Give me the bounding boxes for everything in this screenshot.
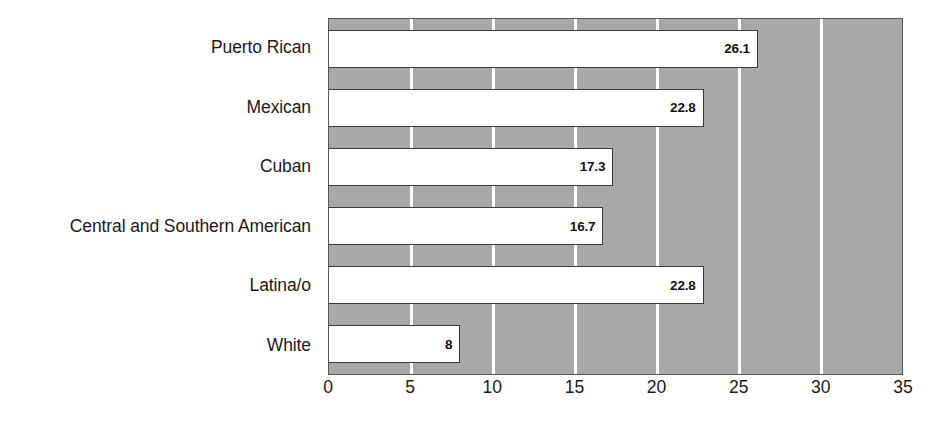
category-axis-labels: Puerto Rican Mexican Cuban Central and S… xyxy=(0,18,320,375)
category-label: Puerto Rican xyxy=(211,37,311,58)
bar[interactable]: 26.1 xyxy=(329,30,758,68)
bar-row: 26.1 xyxy=(329,19,902,78)
category-label-row: White xyxy=(0,316,320,376)
bar-row: 22.8 xyxy=(329,78,902,137)
x-tick-label: 35 xyxy=(893,377,912,398)
x-axis: 05101520253035 xyxy=(328,377,903,407)
category-label-row: Puerto Rican xyxy=(0,18,320,78)
bar-value-label: 17.3 xyxy=(580,159,612,174)
x-tick-label: 10 xyxy=(483,377,502,398)
bar-row: 8 xyxy=(329,315,902,374)
gridline xyxy=(903,19,906,374)
bar[interactable]: 17.3 xyxy=(329,148,613,186)
bar[interactable]: 8 xyxy=(329,325,460,363)
x-tick-label: 5 xyxy=(405,377,415,398)
x-tick-label: 0 xyxy=(323,377,333,398)
bar-row: 16.7 xyxy=(329,197,902,256)
bar-chart: Puerto Rican Mexican Cuban Central and S… xyxy=(0,0,944,430)
bar[interactable]: 22.8 xyxy=(329,266,704,304)
bar-value-label: 16.7 xyxy=(570,219,602,234)
bar-value-label: 22.8 xyxy=(670,278,702,293)
category-label: White xyxy=(267,335,311,356)
category-label-row: Cuban xyxy=(0,137,320,197)
category-label-row: Latina/o xyxy=(0,256,320,316)
bar-row: 22.8 xyxy=(329,256,902,315)
x-tick-label: 30 xyxy=(811,377,830,398)
bar-value-label: 8 xyxy=(445,337,459,352)
x-tick-label: 15 xyxy=(565,377,584,398)
x-tick-label: 20 xyxy=(647,377,666,398)
category-label: Mexican xyxy=(247,97,311,118)
bars-layer: 26.1 22.8 17.3 16.7 xyxy=(329,19,902,374)
x-tick-label: 25 xyxy=(729,377,748,398)
bar[interactable]: 22.8 xyxy=(329,89,704,127)
category-label: Cuban xyxy=(260,156,311,177)
category-label-row: Mexican xyxy=(0,78,320,138)
category-label-row: Central and Southern American xyxy=(0,197,320,257)
bar[interactable]: 16.7 xyxy=(329,207,603,245)
category-label: Central and Southern American xyxy=(70,216,311,237)
category-label: Latina/o xyxy=(250,275,311,296)
bar-value-label: 22.8 xyxy=(670,100,702,115)
bar-row: 17.3 xyxy=(329,137,902,196)
plot-area: 26.1 22.8 17.3 16.7 xyxy=(328,18,903,375)
bar-value-label: 26.1 xyxy=(724,41,756,56)
